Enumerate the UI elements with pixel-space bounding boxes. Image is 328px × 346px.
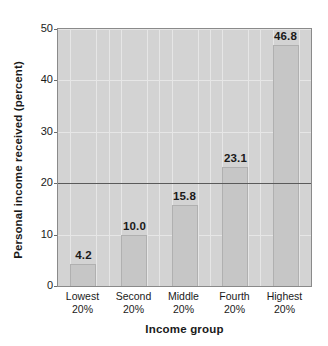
bar-value-label: 23.1 [210, 152, 261, 164]
x-axis-ticks: Lowest20%Second20%Middle20%Fourth20%High… [57, 290, 312, 322]
x-tick-label-line: 20% [259, 303, 310, 316]
vertical-gridline [159, 29, 160, 286]
x-tick-label-line: 20% [57, 303, 108, 316]
x-tick-label-line: Fourth [209, 290, 260, 303]
bar [273, 45, 299, 286]
bar-chart: Personal income received (percent) 01020… [0, 0, 328, 346]
x-tick-label: Lowest20% [57, 290, 108, 316]
bar-value-label: 46.8 [260, 30, 311, 42]
x-tick-label-line: Lowest [57, 290, 108, 303]
vertical-gridline [96, 29, 97, 286]
bar [172, 205, 198, 286]
vertical-gridline [147, 29, 148, 286]
bar-value-label: 4.2 [58, 249, 109, 261]
y-tick-label: 50 [31, 23, 53, 34]
x-tick-label-line: 20% [209, 303, 260, 316]
vertical-gridline [109, 29, 110, 286]
x-tick-label-line: 20% [158, 303, 209, 316]
y-axis-ticks: 01020304050 [28, 28, 53, 287]
x-tick-label: Second20% [108, 290, 159, 316]
bar [121, 235, 147, 286]
y-axis-title: Personal income received (percent) [9, 30, 27, 290]
bar-value-label: 15.8 [159, 190, 210, 202]
vertical-gridline [198, 29, 199, 286]
y-tick-label: 20 [31, 177, 53, 188]
x-axis-title: Income group [57, 323, 312, 335]
bar [222, 167, 248, 286]
bar-value-label: 10.0 [109, 220, 160, 232]
vertical-gridline [299, 29, 300, 286]
bar [70, 264, 96, 286]
x-tick-label: Highest20% [259, 290, 310, 316]
y-tick-label: 40 [31, 74, 53, 85]
y-tick-label: 30 [31, 126, 53, 137]
x-tick-label-line: 20% [108, 303, 159, 316]
vertical-gridline [70, 29, 71, 286]
x-tick-label: Fourth20% [209, 290, 260, 316]
x-tick-label-line: Highest [259, 290, 310, 303]
plot-area: 4.210.015.823.146.8 [57, 28, 312, 287]
plot-inner: 4.210.015.823.146.8 [58, 29, 311, 286]
x-tick-label: Middle20% [158, 290, 209, 316]
y-tick-label: 0 [31, 280, 53, 291]
x-tick-label-line: Second [108, 290, 159, 303]
x-tick-label-line: Middle [158, 290, 209, 303]
reference-line [58, 183, 311, 184]
y-tick-label: 10 [31, 229, 53, 240]
